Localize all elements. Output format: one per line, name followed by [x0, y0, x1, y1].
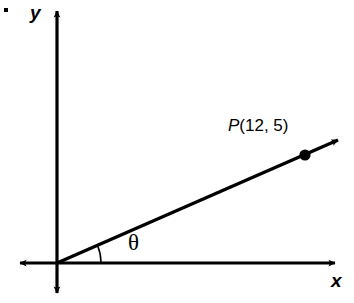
terminal-ray-line: [57, 140, 338, 263]
angle-theta-label: θ: [128, 231, 139, 254]
point-p-dot: [299, 149, 310, 160]
angle-arc-path: [98, 246, 101, 263]
coordinate-diagram: y x θ P(12, 5): [0, 0, 354, 303]
terminal-ray: [57, 140, 338, 263]
y-axis-label: y: [30, 3, 41, 22]
angle-arc: [98, 246, 101, 263]
point-p-name: P: [228, 116, 239, 135]
diagram-canvas: [0, 0, 354, 303]
point-p: [299, 149, 310, 160]
point-p-label: P(12, 5): [228, 117, 288, 134]
x-axis-label: x: [331, 271, 342, 290]
point-p-coords: (12, 5): [239, 116, 288, 135]
